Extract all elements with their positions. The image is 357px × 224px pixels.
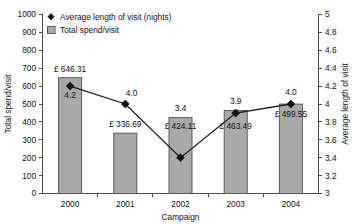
- right-tick-label-3-6: 3.6: [325, 135, 337, 145]
- right-tick-label-4-8: 4.8: [325, 27, 337, 37]
- bar-label-2004: £ 499.55: [275, 109, 308, 119]
- legend-diamond-marker-icon: [48, 14, 54, 21]
- x-tick-label-2004: 2004: [282, 199, 301, 209]
- left-tick-label-100: 100: [22, 171, 36, 181]
- left-axis-ticks: 1000 900 800 700 600 500 400 300 200 100…: [18, 9, 43, 198]
- chart-container: 1000 900 800 700 600 500 400 300 200 100…: [0, 0, 357, 224]
- point-label-2000: 4.2: [64, 90, 76, 100]
- x-tick-label-2002: 2002: [171, 199, 190, 209]
- left-tick-label-800: 800: [22, 45, 36, 55]
- y2-axis-title: Average length of visit: [340, 63, 350, 145]
- bar-label-2002: £ 424.11: [165, 121, 197, 131]
- right-tick-label-4-4: 4.4: [325, 63, 337, 73]
- legend-square-swatch-icon: [48, 27, 56, 34]
- legend: Average length of visit (nights) Total s…: [48, 12, 172, 35]
- x-tick-label-2000: 2000: [61, 199, 80, 209]
- bar-label-2001: £ 336.69: [109, 119, 142, 129]
- bar-2001[interactable]: [114, 133, 137, 193]
- bar-value-labels: £ 646.31 £ 336.69 £ 424.11 £ 463.49 £ 49…: [54, 64, 307, 131]
- y-axis-title: Total spend/visit: [3, 74, 13, 134]
- point-label-2003: 3.9: [230, 96, 242, 106]
- point-label-2004: 4.0: [285, 87, 297, 97]
- right-tick-label-3-2: 3.2: [325, 171, 337, 181]
- right-tick-label-3-8: 3.8: [325, 117, 337, 127]
- legend-label-average-length[interactable]: Average length of visit (nights): [60, 12, 172, 22]
- left-tick-label-200: 200: [22, 153, 36, 163]
- point-label-2001: 4.0: [126, 88, 138, 98]
- right-tick-label-3-4: 3.4: [325, 153, 337, 163]
- right-tick-label-3: 3: [325, 188, 330, 198]
- bar-series: [59, 78, 303, 194]
- x-tick-label-2003: 2003: [226, 199, 245, 209]
- chart-svg: 1000 900 800 700 600 500 400 300 200 100…: [0, 0, 357, 224]
- right-axis-ticks: 5 4.8 4.6 4.4 4.2 4 3.8 3.6 3.4 3.2 3: [319, 9, 337, 198]
- right-tick-label-5: 5: [325, 9, 330, 19]
- left-tick-label-600: 600: [22, 81, 36, 91]
- legend-label-total-spend[interactable]: Total spend/visit: [60, 25, 120, 35]
- left-tick-label-1000: 1000: [18, 9, 37, 19]
- point-label-2002: 3.4: [175, 103, 187, 113]
- right-tick-label-4-6: 4.6: [325, 45, 337, 55]
- x-tick-label-2001: 2001: [116, 199, 135, 209]
- x-axis-ticks: 2000 2001 2002 2003 2004: [61, 194, 301, 210]
- x-axis-title: Campaign: [162, 212, 200, 222]
- left-tick-label-400: 400: [22, 117, 36, 127]
- right-tick-label-4: 4: [325, 99, 330, 109]
- left-tick-label-0: 0: [31, 188, 36, 198]
- left-tick-label-700: 700: [22, 63, 36, 73]
- left-tick-label-300: 300: [22, 135, 36, 145]
- left-tick-label-900: 900: [22, 27, 36, 37]
- bar-label-2000: £ 646.31: [54, 64, 87, 74]
- right-tick-label-4-2: 4.2: [325, 81, 337, 91]
- left-tick-label-500: 500: [22, 99, 36, 109]
